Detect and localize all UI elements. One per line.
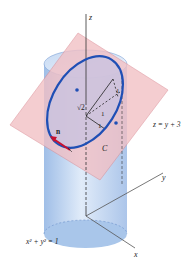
segment-label-1a: 1	[116, 87, 120, 95]
y-axis-label: y	[161, 173, 166, 182]
cylinder-label: x² + y² = 1	[25, 237, 59, 246]
cylinder-plane-diagram: z y x z = y + 3 x² + y² = 1 C n √2 1 1 1	[0, 0, 187, 267]
plane-label: z = y + 3	[152, 120, 181, 129]
sqrt2-label: √2	[77, 103, 85, 112]
z-axis-label: z	[88, 13, 93, 22]
x-axis-label: x	[133, 250, 138, 259]
segment-label-1c: 1	[98, 122, 102, 130]
curve-label: C	[102, 144, 108, 153]
segment-label-1b: 1	[101, 110, 105, 118]
